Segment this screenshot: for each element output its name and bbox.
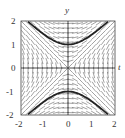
y-tick-neg2: -2	[6, 111, 14, 120]
y-tick-1: 1	[11, 41, 16, 50]
y-axis-label: y	[65, 6, 69, 15]
t-tick-1: 1	[89, 120, 94, 129]
t-tick-neg2: -2	[15, 120, 23, 129]
y-tick-0: 0	[11, 64, 16, 73]
t-axis-label: t	[118, 63, 121, 72]
t-tick-0: 0	[66, 120, 71, 129]
slope-field-plot	[0, 0, 125, 138]
t-tick-neg1: -1	[39, 120, 47, 129]
y-tick-2: 2	[11, 17, 16, 26]
y-tick-neg1: -1	[6, 88, 14, 97]
t-tick-2: 2	[112, 120, 117, 129]
